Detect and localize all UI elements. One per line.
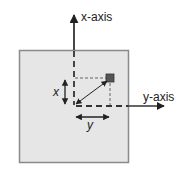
y-distance-label: y	[87, 119, 93, 131]
x-axis-label: x-axis	[81, 11, 112, 23]
diagram-canvas	[0, 0, 184, 174]
x-distance-label: x	[53, 86, 59, 98]
square-marker	[106, 74, 114, 82]
y-axis-label: y-axis	[143, 91, 174, 103]
square-panel	[20, 51, 129, 163]
